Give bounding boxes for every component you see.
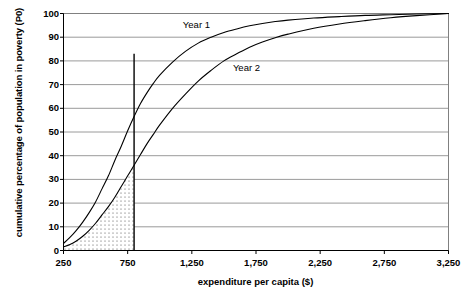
x-tick-label-1750: 1,750 bbox=[244, 257, 268, 268]
x-tick-label-1250: 1,250 bbox=[180, 257, 204, 268]
x-tick-label-3250: 3,250 bbox=[437, 257, 461, 268]
chart-container: cumulative percentage of population in p… bbox=[0, 0, 462, 301]
x-tick-label-250: 250 bbox=[56, 257, 72, 268]
x-tick-label-2750: 2,750 bbox=[372, 257, 396, 268]
x-tick-label-750: 750 bbox=[120, 257, 136, 268]
x-axis-title: expenditure per capita ($) bbox=[63, 276, 448, 287]
series-label-year-2: Year 2 bbox=[233, 62, 260, 73]
x-tick-label-2250: 2,250 bbox=[308, 257, 332, 268]
series-label-year-1: Year 1 bbox=[183, 19, 210, 30]
